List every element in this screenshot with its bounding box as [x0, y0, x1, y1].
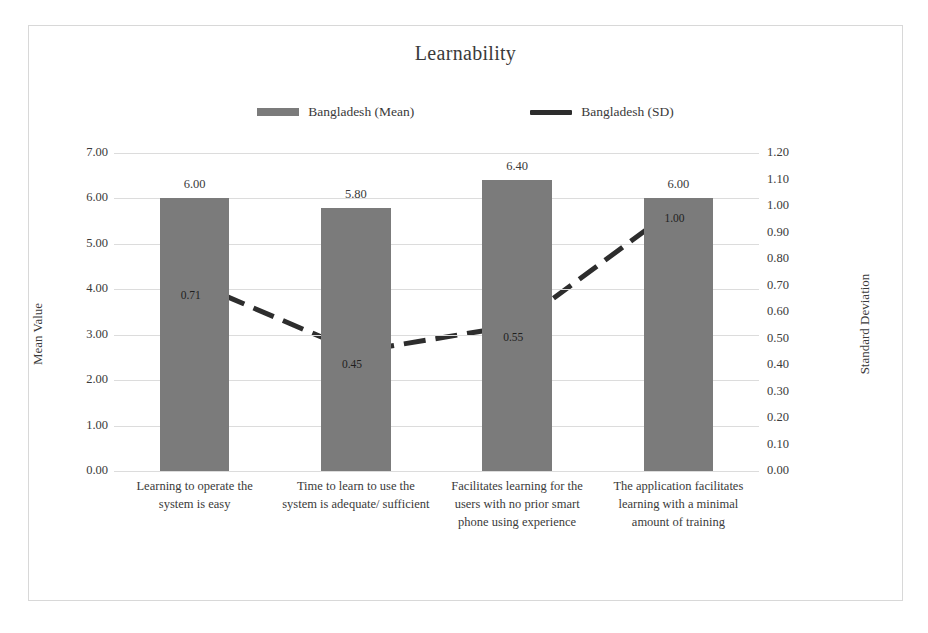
legend-item-mean[interactable]: Bangladesh (Mean) [257, 104, 414, 120]
sd-value-label: 0.71 [181, 289, 201, 301]
legend-item-sd[interactable]: Bangladesh (SD) [530, 104, 674, 120]
chart-frame: Learnability Bangladesh (Mean) Banglades… [28, 25, 903, 601]
y-axis-left-tick: 0.00 [86, 463, 108, 478]
line-swatch-icon [530, 110, 572, 115]
chart-legend: Bangladesh (Mean) Bangladesh (SD) [29, 104, 902, 120]
y-axis-left-tick: 2.00 [86, 372, 108, 387]
bar-swatch-icon [257, 108, 299, 116]
y-axis-left-tick: 7.00 [86, 145, 108, 160]
sd-value-label: 1.00 [664, 212, 684, 224]
sd-line-path [195, 206, 679, 352]
y-axis-right-tick: 0.70 [767, 278, 789, 293]
bar[interactable] [321, 208, 390, 471]
y-axis-left-tick: 1.00 [86, 418, 108, 433]
y-axis-right-tick: 0.80 [767, 251, 789, 266]
y-axis-right-tick: 0.90 [767, 225, 789, 240]
y-axis-left-tick: 4.00 [86, 281, 108, 296]
y-axis-right-tick: 0.40 [767, 357, 789, 372]
bar[interactable] [644, 198, 713, 471]
bar-value-label: 6.00 [165, 177, 225, 192]
y-axis-right-tick: 0.10 [767, 437, 789, 452]
gridline [114, 471, 759, 472]
plot-area: 7.006.005.004.003.002.001.000.001.201.10… [114, 153, 759, 471]
legend-label-mean: Bangladesh (Mean) [308, 104, 414, 120]
legend-label-sd: Bangladesh (SD) [581, 104, 674, 120]
x-axis-category-label: The application facilitates learning wit… [598, 478, 759, 531]
y-axis-right-tick: 0.50 [767, 331, 789, 346]
y-axis-right-tick: 0.60 [767, 304, 789, 319]
y-axis-right-tick: 1.10 [767, 172, 789, 187]
bar[interactable] [482, 180, 551, 471]
y-axis-right-tick: 0.30 [767, 384, 789, 399]
x-axis-category-labels: Learning to operate the system is easyTi… [114, 478, 759, 531]
gridline [114, 153, 759, 154]
y-axis-left-title: Mean Value [30, 303, 46, 365]
sd-value-label: 0.55 [503, 331, 523, 343]
y-axis-left-tick: 6.00 [86, 190, 108, 205]
sd-value-label: 0.45 [342, 358, 362, 370]
x-axis-category-label: Facilitates learning for the users with … [437, 478, 598, 531]
bar-value-label: 5.80 [326, 187, 386, 202]
y-axis-right-tick: 1.00 [767, 198, 789, 213]
y-axis-right-tick: 0.00 [767, 463, 789, 478]
bar-value-label: 6.40 [487, 159, 547, 174]
page-title: Learnability [29, 42, 902, 65]
x-axis-category-label: Time to learn to use the system is adequ… [275, 478, 436, 531]
x-axis-category-label: Learning to operate the system is easy [114, 478, 275, 531]
bar[interactable] [160, 198, 229, 471]
y-axis-right-tick: 0.20 [767, 410, 789, 425]
y-axis-left-tick: 5.00 [86, 236, 108, 251]
y-axis-left-tick: 3.00 [86, 327, 108, 342]
bar-value-label: 6.00 [648, 177, 708, 192]
y-axis-right-title: Standard Deviation [857, 274, 873, 375]
y-axis-right-tick: 1.20 [767, 145, 789, 160]
